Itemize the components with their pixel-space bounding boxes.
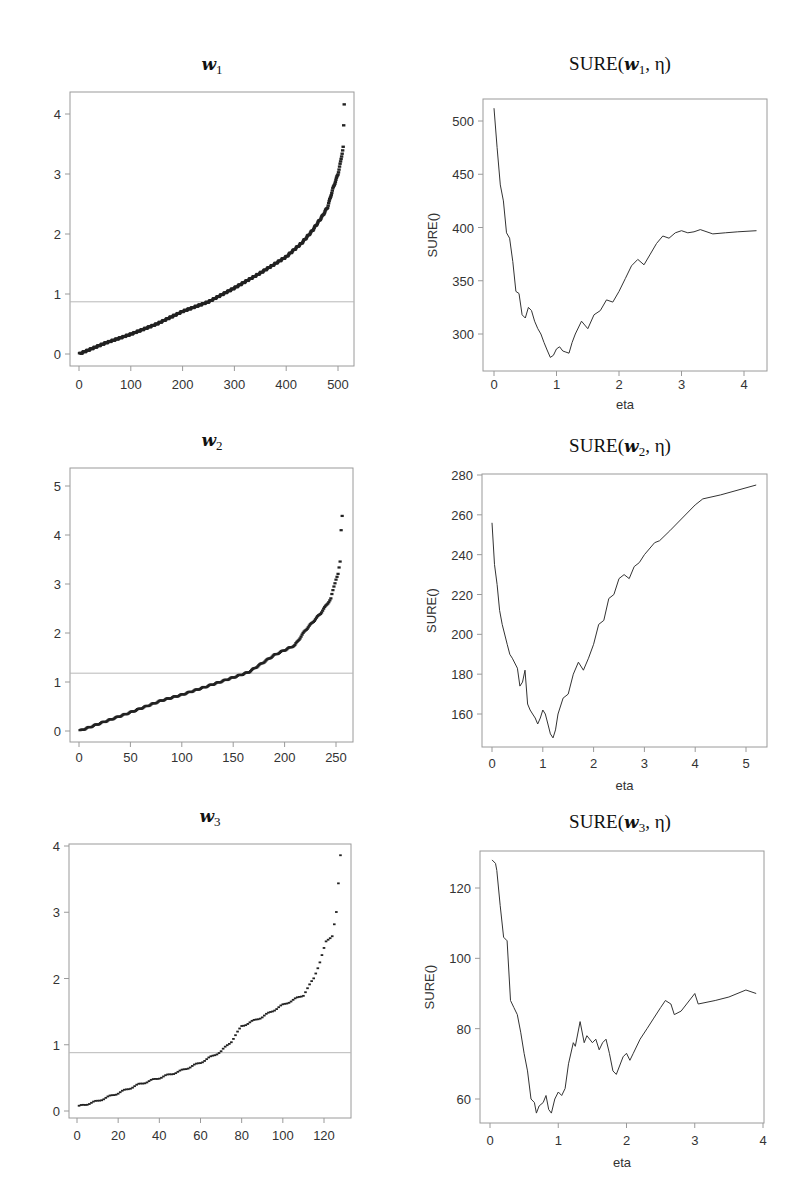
- y-tick-label: 450: [452, 167, 474, 182]
- x-tick-label: 1: [539, 756, 546, 771]
- y-tick-label: 60: [457, 1092, 471, 1107]
- x-tick-label: 2: [590, 756, 597, 771]
- panel-sure_w1: SURE(w1, η)30035040045050001234etaSURE(): [425, 53, 767, 412]
- y-tick-label: 350: [452, 274, 474, 289]
- y-tick-label: 80: [457, 1022, 471, 1037]
- panel-sure_w2: SURE(w2, η)160180200220240260280012345et…: [424, 435, 767, 793]
- y-tick-label: 0: [54, 347, 61, 362]
- y-tick-label: 2: [54, 227, 61, 242]
- sure-curve: [492, 485, 756, 738]
- x-tick-label: 100: [120, 377, 142, 392]
- y-tick-label: 4: [54, 528, 61, 543]
- y-tick-label: 260: [451, 508, 473, 523]
- plot-frame: [482, 474, 767, 747]
- x-tick-label: 120: [313, 1128, 335, 1143]
- panel-sure_w3: SURE(w3, η)608010012001234etaSURE(): [422, 811, 767, 1170]
- plot-frame: [483, 99, 767, 371]
- y-tick-label: 5: [54, 479, 61, 494]
- y-tick-label: 240: [451, 548, 473, 563]
- x-tick-label: 5: [742, 756, 749, 771]
- y-tick-label: 4: [53, 839, 60, 854]
- x-tick-label: 0: [490, 377, 497, 392]
- y-tick-label: 3: [53, 905, 60, 920]
- plot-frame: [69, 844, 351, 1118]
- y-tick-label: 280: [451, 468, 473, 483]
- y-tick-label: 300: [452, 327, 474, 342]
- x-tick-label: 4: [692, 756, 699, 771]
- y-axis-label: SURE(): [422, 965, 437, 1010]
- x-tick-label: 3: [678, 377, 685, 392]
- data-points: [78, 103, 346, 355]
- plot-frame: [70, 92, 354, 366]
- y-tick-label: 120: [449, 881, 471, 896]
- x-tick-label: 4: [759, 1133, 766, 1148]
- x-tick-label: 60: [193, 1128, 207, 1143]
- x-tick-label: 0: [488, 756, 495, 771]
- x-tick-label: 2: [623, 1133, 630, 1148]
- panel-title: SURE(w3, η): [569, 811, 671, 835]
- y-tick-label: 400: [452, 221, 474, 236]
- panel-w1: w1012340100200300400500: [54, 54, 354, 392]
- x-tick-label: 20: [111, 1128, 125, 1143]
- y-tick-label: 100: [449, 951, 471, 966]
- x-tick-label: 200: [172, 377, 194, 392]
- panel-title: SURE(w2, η): [569, 435, 671, 459]
- x-axis-label: eta: [615, 778, 634, 793]
- x-tick-label: 3: [691, 1133, 698, 1148]
- plot-frame: [70, 468, 353, 742]
- x-tick-label: 300: [224, 377, 246, 392]
- x-axis-label: eta: [613, 1155, 632, 1170]
- panel-title: w3: [199, 806, 220, 829]
- plot-frame: [480, 851, 764, 1123]
- y-tick-label: 220: [451, 588, 473, 603]
- x-tick-label: 250: [325, 750, 347, 765]
- x-tick-label: 100: [272, 1128, 294, 1143]
- x-tick-label: 150: [222, 750, 244, 765]
- x-tick-label: 0: [75, 377, 82, 392]
- data-points: [78, 515, 343, 731]
- y-tick-label: 2: [53, 972, 60, 987]
- y-axis-label: SURE(): [424, 588, 439, 633]
- x-tick-label: 80: [234, 1128, 248, 1143]
- x-tick-label: 200: [274, 750, 296, 765]
- x-tick-label: 0: [486, 1133, 493, 1148]
- panel-w3: w301234020406080100120: [53, 806, 351, 1143]
- panel-title: w2: [201, 430, 222, 453]
- y-tick-label: 2: [54, 626, 61, 641]
- sure-curve: [492, 860, 756, 1113]
- y-tick-label: 1: [54, 287, 61, 302]
- x-tick-label: 2: [615, 377, 622, 392]
- y-tick-label: 3: [54, 577, 61, 592]
- figure: w1012340100200300400500SURE(w1, η)300350…: [0, 0, 808, 1203]
- data-points: [78, 854, 342, 1106]
- panel-w2: w2012345050100150200250: [54, 430, 353, 765]
- x-tick-label: 100: [171, 750, 193, 765]
- x-tick-label: 4: [740, 377, 747, 392]
- y-tick-label: 160: [451, 707, 473, 722]
- sure-curve: [494, 108, 757, 357]
- y-tick-label: 3: [54, 167, 61, 182]
- x-tick-label: 1: [553, 377, 560, 392]
- y-axis-label: SURE(): [425, 213, 440, 258]
- x-tick-label: 40: [152, 1128, 166, 1143]
- x-axis-label: eta: [616, 397, 635, 412]
- panel-title: SURE(w1, η): [569, 53, 671, 77]
- x-tick-label: 1: [555, 1133, 562, 1148]
- y-tick-label: 180: [451, 667, 473, 682]
- x-tick-label: 50: [123, 750, 137, 765]
- y-tick-label: 1: [54, 675, 61, 690]
- panel-title: w1: [201, 54, 222, 77]
- x-tick-label: 0: [75, 750, 82, 765]
- y-tick-label: 0: [54, 724, 61, 739]
- y-tick-label: 1: [53, 1038, 60, 1053]
- y-tick-label: 4: [54, 107, 61, 122]
- y-tick-label: 500: [452, 114, 474, 129]
- x-tick-label: 3: [641, 756, 648, 771]
- x-tick-label: 400: [275, 377, 297, 392]
- y-tick-label: 0: [53, 1104, 60, 1119]
- x-tick-label: 0: [73, 1128, 80, 1143]
- x-tick-label: 500: [327, 377, 349, 392]
- y-tick-label: 200: [451, 627, 473, 642]
